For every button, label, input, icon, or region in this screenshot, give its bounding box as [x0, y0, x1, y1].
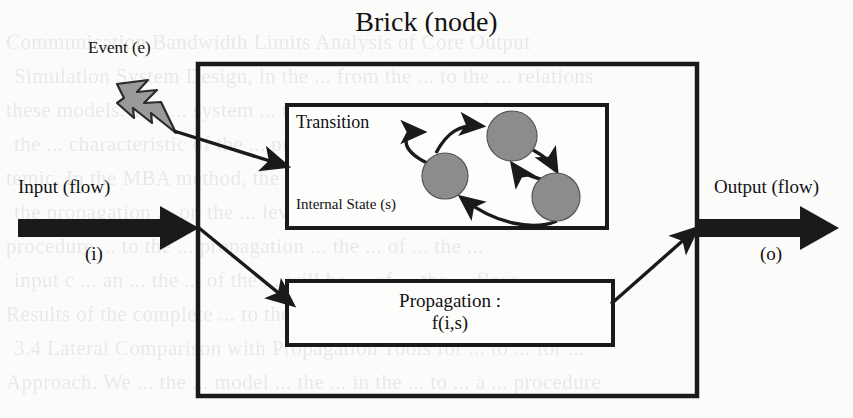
input-symbol-label: (i) [85, 243, 103, 265]
event-lightning-bolt-icon [117, 80, 176, 133]
page-title: Brick (node) [0, 6, 853, 38]
propagation-to-output-arrow [611, 229, 696, 304]
output-symbol-label: (o) [760, 243, 782, 265]
state-node-s1 [422, 153, 468, 199]
input-to-propagation-arrow [199, 228, 292, 304]
transition-label: Transition [296, 112, 369, 133]
diagram-vector-layer [0, 0, 853, 418]
internal-state-label: Internal State (s) [296, 196, 396, 213]
state-node-s3 [532, 173, 580, 221]
output-flow-label: Output (flow) [714, 176, 819, 198]
input-flow-arrow [18, 206, 199, 250]
propagation-label: Propagation : [287, 290, 613, 312]
propagation-formula: f(i,s) [287, 312, 613, 334]
state-node-s2 [487, 111, 537, 161]
brick-node-diagram: Communication Bandwidth Limits Analysis … [0, 0, 853, 418]
input-flow-label: Input (flow) [18, 176, 110, 198]
event-label: Event (e) [88, 38, 151, 58]
event-to-transition-arrow [174, 131, 286, 166]
